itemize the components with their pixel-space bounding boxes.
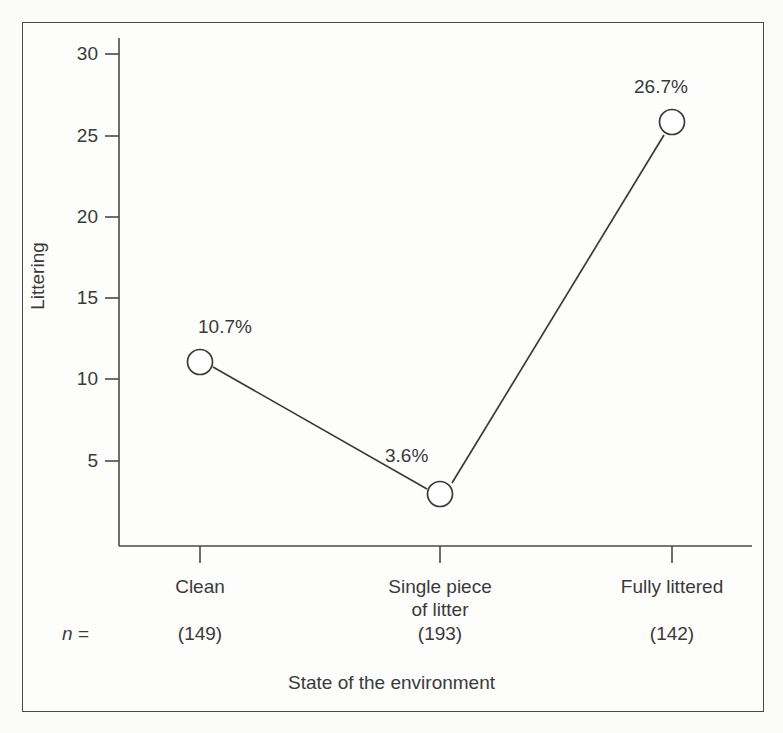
data-point-marker-clean <box>188 350 213 375</box>
sample-size-fully-littered: (142) <box>592 623 752 645</box>
y-tick-label-15: 15 <box>52 287 98 309</box>
x-category-label-fully-littered: Fully littered <box>592 575 752 598</box>
data-label-single-piece: 3.6% <box>385 445 428 467</box>
x-category-label-clean: Clean <box>120 575 280 598</box>
data-point-marker-single-piece <box>428 482 453 507</box>
data-point-markers <box>188 110 685 507</box>
x-category-label-single-piece: Single piece of litter <box>360 575 520 621</box>
x-axis-title: State of the environment <box>0 672 783 694</box>
y-tick-label-20: 20 <box>52 206 98 228</box>
y-tick-label-25: 25 <box>52 125 98 147</box>
data-label-clean: 10.7% <box>198 316 252 338</box>
sample-size-prefix-label: n = <box>62 623 89 645</box>
y-tick-label-5: 5 <box>52 450 98 472</box>
figure-container: Littering 30 25 20 15 10 5 10.7% 3.6% 26… <box>0 0 783 733</box>
x-category-line: Single piece <box>360 575 520 598</box>
data-point-marker-fully-littered <box>660 110 685 135</box>
x-category-line: Clean <box>120 575 280 598</box>
y-tick-label-30: 30 <box>52 43 98 65</box>
y-tick-label-10: 10 <box>52 368 98 390</box>
sample-size-clean: (149) <box>120 623 280 645</box>
y-axis-title: Littering <box>27 216 49 336</box>
data-series-line <box>213 135 664 489</box>
x-axis-ticks <box>200 546 672 563</box>
x-category-line: Fully littered <box>592 575 752 598</box>
x-category-line: of litter <box>360 598 520 621</box>
sample-size-single-piece: (193) <box>360 623 520 645</box>
data-label-fully-littered: 26.7% <box>634 76 688 98</box>
y-axis-ticks <box>105 54 119 461</box>
